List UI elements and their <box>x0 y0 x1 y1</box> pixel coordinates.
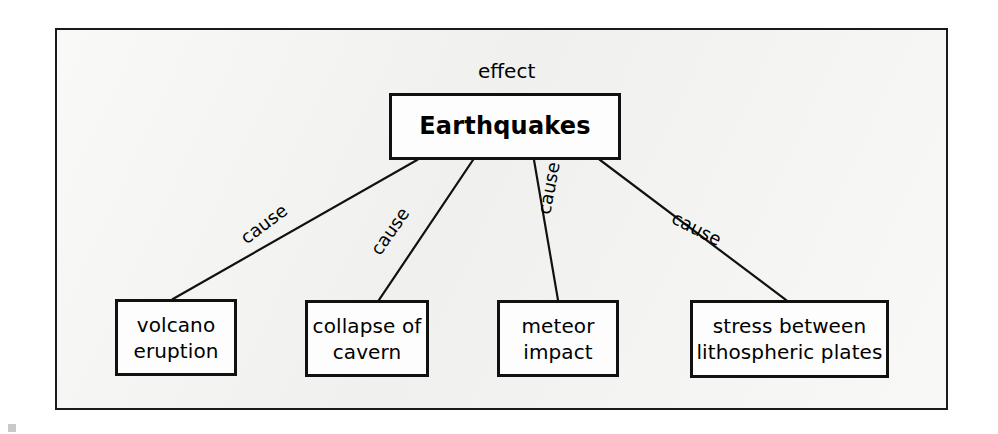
node-collapse-of-cavern-line1: collapse of <box>313 314 422 338</box>
node-collapse-of-cavern-label: collapse of cavern <box>313 313 422 365</box>
node-earthquakes-label: Earthquakes <box>419 113 591 139</box>
node-stress-line2: lithospheric plates <box>696 340 882 364</box>
node-collapse-of-cavern-line2: cavern <box>333 340 402 364</box>
node-earthquakes[interactable]: Earthquakes <box>389 93 621 160</box>
node-meteor-impact-label: meteor impact <box>522 313 595 365</box>
scan-artifact <box>8 424 16 432</box>
node-volcano-eruption-line1: volcano <box>137 313 216 337</box>
node-meteor-impact-line2: impact <box>523 340 592 364</box>
diagram-canvas: effect Earthquakes volcano eruption coll… <box>0 0 998 434</box>
node-volcano-eruption[interactable]: volcano eruption <box>115 299 237 376</box>
node-collapse-of-cavern[interactable]: collapse of cavern <box>305 300 429 377</box>
node-volcano-eruption-line2: eruption <box>133 339 218 363</box>
node-meteor-impact[interactable]: meteor impact <box>497 300 619 377</box>
node-volcano-eruption-label: volcano eruption <box>133 312 218 364</box>
node-stress-between-lithospheric-plates[interactable]: stress between lithospheric plates <box>690 300 889 378</box>
node-stress-between-lithospheric-plates-label: stress between lithospheric plates <box>696 313 882 365</box>
effect-label: effect <box>478 61 535 81</box>
node-stress-line1: stress between <box>713 314 866 338</box>
node-meteor-impact-line1: meteor <box>522 314 595 338</box>
